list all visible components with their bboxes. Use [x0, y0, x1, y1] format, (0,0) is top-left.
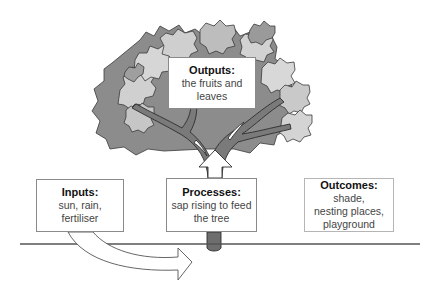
- tree-trunk: [207, 232, 221, 251]
- outputs-title: Outputs:: [189, 64, 235, 77]
- tree-illustration: [0, 0, 440, 297]
- outcomes-text: shade, nesting places, playground: [314, 192, 384, 231]
- outputs-box: Outputs: the fruits and leaves: [168, 57, 256, 109]
- outcomes-title: Outcomes:: [320, 179, 377, 192]
- inputs-box: Inputs: sun, rain, fertiliser: [36, 179, 124, 232]
- outputs-text: the fruits and leaves: [182, 77, 243, 103]
- outcomes-box: Outcomes: shade, nesting places, playgro…: [304, 178, 394, 232]
- arrow-curved-icon: [68, 232, 192, 280]
- processes-box: Processes: sap rising to feed the tree: [166, 178, 257, 232]
- processes-title: Processes:: [182, 186, 241, 199]
- inputs-text: sun, rain, fertiliser: [58, 199, 101, 225]
- inputs-title: Inputs:: [62, 186, 99, 199]
- processes-text: sap rising to feed the tree: [172, 199, 252, 225]
